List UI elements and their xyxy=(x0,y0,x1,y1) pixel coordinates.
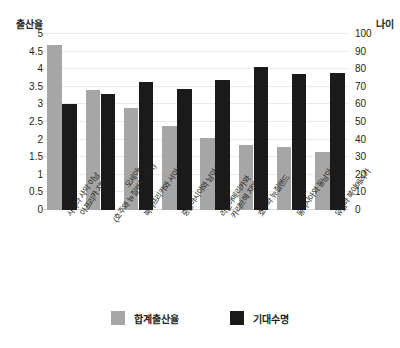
left-tick-label: 4.5 xyxy=(29,47,43,57)
gray-swatch-icon xyxy=(111,311,125,325)
bar-life-expectancy xyxy=(177,89,192,210)
bar-fertility xyxy=(47,45,62,210)
right-axis-title: 나이 xyxy=(376,16,394,31)
left-tick-label: 2.5 xyxy=(29,117,43,127)
right-tick-label: 100 xyxy=(355,29,372,39)
left-tick-label: 4 xyxy=(37,64,43,74)
right-tick-label: 90 xyxy=(355,47,366,57)
bar-life-expectancy xyxy=(101,94,116,210)
left-tick-label: 5 xyxy=(37,29,43,39)
left-tick-label: 0.5 xyxy=(29,187,43,197)
right-tick-label: 70 xyxy=(355,82,366,92)
bar-life-expectancy xyxy=(330,73,345,210)
left-tick-label: 1.5 xyxy=(29,152,43,162)
legend-item[interactable]: 합계출산율 xyxy=(111,311,178,326)
left-tick-label: 1 xyxy=(37,170,43,180)
category-axis-labels: 사하라 사막 이남아프리카 지역오세아니아(호주와 뉴질랜드 제외)북아프리카와… xyxy=(0,213,400,308)
right-tick-label: 40 xyxy=(355,135,366,145)
right-tick-label: 30 xyxy=(355,152,366,162)
right-tick-label: 60 xyxy=(355,99,366,109)
bar-life-expectancy xyxy=(292,74,307,210)
bar-life-expectancy xyxy=(215,80,230,210)
legend-label: 합계출산율 xyxy=(134,311,178,326)
left-tick-label: 3 xyxy=(37,99,43,109)
bar-group xyxy=(47,34,77,210)
legend-label: 기대수명 xyxy=(253,311,288,326)
bar-life-expectancy xyxy=(62,104,77,210)
left-tick-label: 2 xyxy=(37,135,43,145)
right-tick-label: 50 xyxy=(355,117,366,127)
right-tick-label: 80 xyxy=(355,64,366,74)
left-tick-label: 3.5 xyxy=(29,82,43,92)
black-swatch-icon xyxy=(230,311,244,325)
legend-item[interactable]: 기대수명 xyxy=(230,311,288,326)
chart-legend: 합계출산율기대수명 xyxy=(0,306,400,330)
fertility-life-expectancy-bar-chart: 출산율 나이 00.511.522.533.544.55 01020304050… xyxy=(0,0,400,348)
